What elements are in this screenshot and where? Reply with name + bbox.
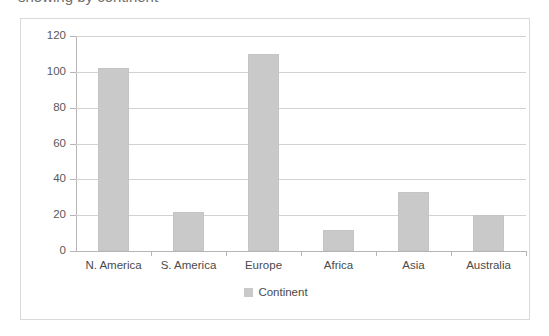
bars-group xyxy=(76,36,526,251)
y-axis-label-80: 80 xyxy=(24,102,66,114)
y-axis-label-20: 20 xyxy=(24,209,66,221)
bar-asia[interactable] xyxy=(398,192,429,251)
x-axis-label-australia: Australia xyxy=(451,259,526,273)
chart-frame: 020406080100120 N. AmericaS. AmericaEuro… xyxy=(20,18,530,320)
x-axis-label-n-america: N. America xyxy=(76,259,151,273)
bar-africa[interactable] xyxy=(323,230,354,252)
clipped-heading-text: showing by continent xyxy=(18,0,158,5)
legend-label-continent: Continent xyxy=(258,287,307,299)
y-axis-tick-labels: 020406080100120 xyxy=(21,36,66,251)
bar-s-america[interactable] xyxy=(173,212,204,251)
chart-legend: Continent xyxy=(21,287,531,299)
y-axis-tick-20 xyxy=(70,215,76,216)
y-axis-tick-0 xyxy=(70,251,76,252)
y-axis-label-0: 0 xyxy=(24,245,66,257)
y-axis-tick-40 xyxy=(70,179,76,180)
clipped-heading-sliver: showing by continent xyxy=(0,0,549,11)
y-axis-label-120: 120 xyxy=(24,30,66,42)
chart-plot-wrapper: 020406080100120 N. AmericaS. AmericaEuro… xyxy=(21,19,531,321)
x-axis-tick-end xyxy=(526,251,527,256)
x-axis-label-s-america: S. America xyxy=(151,259,226,273)
y-axis-tick-60 xyxy=(70,144,76,145)
x-axis-tick-4 xyxy=(376,251,377,256)
y-axis-label-100: 100 xyxy=(24,66,66,78)
x-axis-label-asia: Asia xyxy=(376,259,451,273)
y-axis-label-60: 60 xyxy=(24,138,66,150)
bar-europe[interactable] xyxy=(248,54,279,251)
bar-n-america[interactable] xyxy=(98,68,129,251)
x-axis-label-europe: Europe xyxy=(226,259,301,273)
legend-swatch-continent xyxy=(244,288,253,297)
y-axis-tick-80 xyxy=(70,108,76,109)
y-axis-label-40: 40 xyxy=(24,173,66,185)
x-axis-label-africa: Africa xyxy=(301,259,376,273)
x-axis-tick-2 xyxy=(226,251,227,256)
y-axis-tick-100 xyxy=(70,72,76,73)
x-axis-tick-5 xyxy=(451,251,452,256)
bar-australia[interactable] xyxy=(473,215,504,251)
x-axis-tick-1 xyxy=(151,251,152,256)
x-axis-category-labels: N. AmericaS. AmericaEuropeAfricaAsiaAust… xyxy=(76,259,526,277)
y-axis-tick-120 xyxy=(70,36,76,37)
x-axis-tick-3 xyxy=(301,251,302,256)
